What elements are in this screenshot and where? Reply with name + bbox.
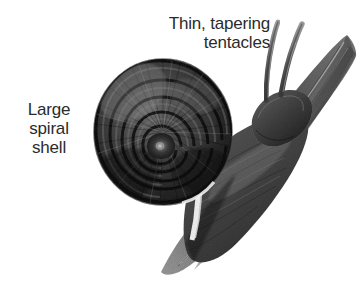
label-spiral-shell: Large spiral shell xyxy=(8,100,90,157)
label-tentacles: Thin, tapering tentacles xyxy=(118,14,270,52)
tentacles-group xyxy=(266,22,302,100)
figure-canvas: Thin, tapering tentacles Large spiral sh… xyxy=(0,0,358,293)
tentacle-upper xyxy=(281,24,302,95)
